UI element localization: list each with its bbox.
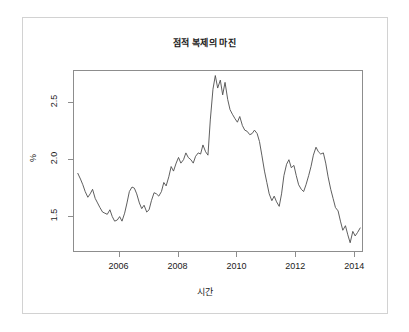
x-tick-label: 2010 (216, 261, 256, 271)
screenshot-root: 점적 복제의 마진 % 1.52.02.5 200620082010201220… (0, 0, 409, 332)
x-tick-mark (119, 252, 120, 257)
x-tick-mark (354, 252, 355, 257)
y-tick-mark (68, 102, 73, 103)
x-tick-label: 2006 (99, 261, 139, 271)
x-tick-mark (178, 252, 179, 257)
y-tick-label: 2.0 (49, 146, 59, 170)
x-tick-mark (236, 252, 237, 257)
y-tick-mark (68, 159, 73, 160)
x-tick-label: 2014 (334, 261, 374, 271)
x-tick-label: 2008 (158, 261, 198, 271)
chart-title: 점적 복제의 마진 (0, 36, 409, 49)
line-series (74, 71, 364, 253)
y-tick-label: 1.5 (49, 203, 59, 227)
y-tick-label: 2.5 (49, 89, 59, 113)
x-tick-label: 2012 (275, 261, 315, 271)
y-axis-label: % (28, 150, 38, 166)
plot-area (73, 70, 363, 252)
x-axis-label: 시간 (0, 285, 409, 298)
y-tick-mark (68, 216, 73, 217)
x-tick-mark (295, 252, 296, 257)
